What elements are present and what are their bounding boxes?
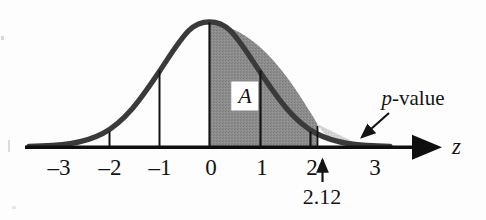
pvalue-label-text: -value [392,86,444,110]
pvalue-label-symbol: p [382,86,393,110]
pvalue-label: p-value [382,88,445,109]
tick-label-pos3: 3 [369,156,381,179]
tick-label-neg2: –2 [99,156,122,179]
tick-label-zero: 0 [205,156,217,179]
axis-variable-label: z [452,135,461,158]
tick-label-pos2: 2 [306,156,318,179]
normal-curve-pvalue-figure: –3 –2 –1 0 1 2 3 z A p-value 2.12 [0,0,486,220]
area-label-A: A [231,82,258,111]
tick-label-neg1: –1 [149,156,172,179]
pvalue-arrow [362,113,389,137]
shaded-area-A [210,23,318,147]
tick-label-pos1: 1 [256,156,268,179]
critical-value-label: 2.12 [303,186,342,208]
tick-label-neg3: –3 [48,156,71,179]
